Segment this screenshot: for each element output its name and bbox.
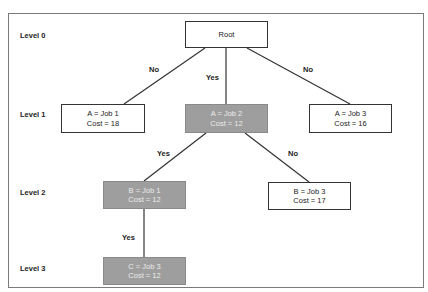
level-3-label: Level 3 bbox=[20, 264, 45, 273]
node-c-job3: C = Job 3 Cost = 12 bbox=[103, 257, 186, 285]
node-line1: A = Job 1 bbox=[87, 109, 118, 119]
node-line1: B = Job 3 bbox=[294, 187, 326, 197]
edge-label-a2-b3: No bbox=[288, 149, 298, 158]
node-root: Root bbox=[185, 21, 268, 48]
node-line2: Cost = 16 bbox=[334, 119, 366, 129]
edge-a2-b3 bbox=[245, 133, 309, 182]
node-line2: Cost = 12 bbox=[128, 195, 160, 205]
level-2-label: Level 2 bbox=[20, 188, 45, 197]
edge-label-b1-c3: Yes bbox=[122, 233, 135, 242]
node-a-job2: A = Job 2 Cost = 12 bbox=[185, 104, 268, 133]
node-b-job3: B = Job 3 Cost = 17 bbox=[268, 182, 351, 210]
node-line1: C = Job 3 bbox=[128, 262, 160, 272]
node-line1: B = Job 1 bbox=[129, 186, 161, 196]
edge-label-root-a2: Yes bbox=[206, 73, 219, 82]
edge-a2-b1 bbox=[144, 133, 206, 181]
node-line2: Cost = 12 bbox=[210, 119, 242, 129]
node-a-job3: A = Job 3 Cost = 16 bbox=[309, 104, 392, 133]
node-b-job1: B = Job 1 Cost = 12 bbox=[103, 181, 186, 209]
level-0-label: Level 0 bbox=[20, 31, 45, 40]
node-line2: Cost = 17 bbox=[293, 196, 325, 206]
edge-label-root-a3: No bbox=[303, 65, 313, 74]
level-1-label: Level 1 bbox=[20, 110, 45, 119]
node-root-label: Root bbox=[219, 30, 235, 40]
node-line2: Cost = 12 bbox=[128, 271, 160, 281]
node-line1: A = Job 2 bbox=[211, 109, 242, 119]
node-line1: A = Job 3 bbox=[335, 109, 366, 119]
edge-root-a1 bbox=[124, 48, 205, 104]
edge-root-a3 bbox=[247, 48, 350, 104]
edge-label-root-a1: No bbox=[149, 65, 159, 74]
node-line2: Cost = 18 bbox=[87, 119, 119, 129]
node-a-job1: A = Job 1 Cost = 18 bbox=[61, 104, 145, 133]
edge-label-a2-b1: Yes bbox=[157, 149, 170, 158]
